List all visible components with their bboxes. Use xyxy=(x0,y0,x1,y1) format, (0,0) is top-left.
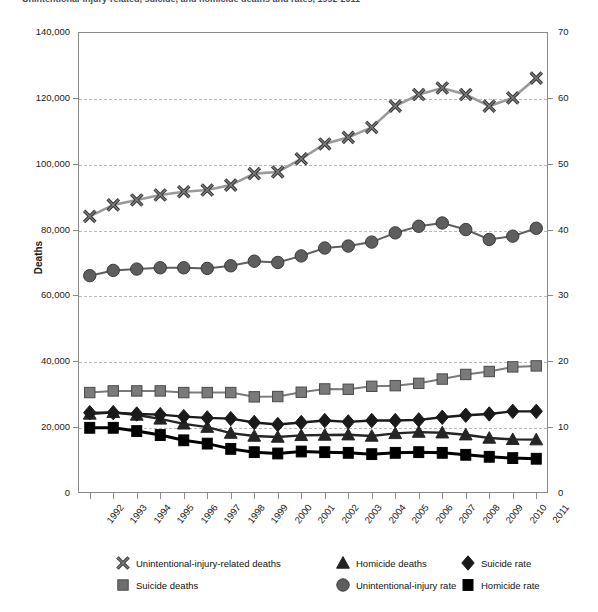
y-axis-left-tick: 140,000 xyxy=(4,26,70,37)
x-axis-tickmark xyxy=(348,493,349,499)
y-axis-left-tickmark xyxy=(73,427,78,428)
diamond xyxy=(458,554,478,572)
y-axis-right-tickmark xyxy=(548,295,553,296)
series-blacksquare xyxy=(85,422,542,464)
y-axis-right-tick: 50 xyxy=(558,158,569,169)
x-axis-tickmark xyxy=(395,493,396,499)
x-axis-tickmark xyxy=(466,493,467,499)
y-axis-right-tickmark xyxy=(548,230,553,231)
y-axis-left-tick: 100,000 xyxy=(4,158,70,169)
blacksquare xyxy=(458,576,478,594)
y-axis-left-tickmark xyxy=(73,361,78,362)
x-axis-tickmark xyxy=(137,493,138,499)
x-axis-tick-2003: 2003 xyxy=(362,502,384,525)
legend-item: Unintentional-injury-related deaths xyxy=(110,552,281,574)
y-axis-right-tick: 60 xyxy=(558,92,569,103)
y-axis-left-tick: 40,000 xyxy=(4,355,70,366)
legend-item: Homicide rate xyxy=(455,574,540,596)
x-axis-tick-2010: 2010 xyxy=(527,502,549,525)
y-axis-left-tick: 120,000 xyxy=(4,92,70,103)
triangle xyxy=(333,554,353,572)
legend-item: Suicide rate xyxy=(455,552,540,574)
x-axis-tick-2004: 2004 xyxy=(386,502,408,525)
x-axis-tick-1997: 1997 xyxy=(221,502,243,525)
legend-label: Unintentional-injury rate xyxy=(356,580,456,591)
legend-label: Suicide deaths xyxy=(136,580,198,591)
x-axis-tickmark xyxy=(207,493,208,499)
x-axis-tickmark xyxy=(254,493,255,499)
x-axis-tick-2006: 2006 xyxy=(433,502,455,525)
x-axis-tickmark xyxy=(90,493,91,499)
legend-label: Homicide deaths xyxy=(356,558,427,569)
x-axis-tick-1998: 1998 xyxy=(245,502,267,525)
y-axis-right-tick: 10 xyxy=(558,421,569,432)
chart-data-layer xyxy=(78,32,548,493)
x-axis-tick-2009: 2009 xyxy=(503,502,525,525)
y-axis-right-tickmark xyxy=(548,427,553,428)
y-axis-right-tickmark xyxy=(548,98,553,99)
y-axis-left-tick: 0 xyxy=(4,487,70,498)
square-marker xyxy=(110,576,136,594)
x-axis-tick-2000: 2000 xyxy=(292,502,314,525)
y-axis-right-tick: 0 xyxy=(558,487,563,498)
x-axis-tickmark xyxy=(231,493,232,499)
x-axis-tick-2007: 2007 xyxy=(456,502,478,525)
y-axis-left-tickmark xyxy=(73,230,78,231)
y-axis-left-tickmark xyxy=(73,164,78,165)
diamond-marker xyxy=(455,554,481,572)
y-axis-right-tick: 20 xyxy=(558,355,569,366)
x-axis-tick-1999: 1999 xyxy=(268,502,290,525)
x-axis-tick-1992: 1992 xyxy=(104,502,126,525)
x-marker xyxy=(110,554,136,572)
legend-label: Unintentional-injury-related deaths xyxy=(136,558,281,569)
x-axis-tickmark xyxy=(113,493,114,499)
x-axis-tick-2001: 2001 xyxy=(315,502,337,525)
x-axis-tick-2005: 2005 xyxy=(409,502,431,525)
x-axis-tickmark xyxy=(489,493,490,499)
x-axis-tickmark xyxy=(372,493,373,499)
chart-figure: Unintentional-injury-related, suicide, a… xyxy=(0,0,598,612)
x-axis-tick-2011: 2011 xyxy=(550,502,571,525)
chart-legend: Unintentional-injury-related deathsSuici… xyxy=(0,552,598,612)
chart-title-clipped: Unintentional-injury-related, suicide, a… xyxy=(0,0,598,9)
circle xyxy=(333,576,353,594)
x-axis-tick-2008: 2008 xyxy=(480,502,502,525)
series-square xyxy=(85,361,542,402)
x-axis-tick-2002: 2002 xyxy=(339,502,361,525)
legend-column: Unintentional-injury-related deathsSuici… xyxy=(110,552,281,596)
x-axis-tickmark xyxy=(184,493,185,499)
y-axis-right-tick: 30 xyxy=(558,289,569,300)
y-axis-right-tick: 40 xyxy=(558,224,569,235)
legend-label: Homicide rate xyxy=(481,580,540,591)
legend-column: Suicide rateHomicide rate xyxy=(455,552,540,596)
x-axis-tickmark xyxy=(419,493,420,499)
triangle-marker xyxy=(330,554,356,572)
y-axis-left-tickmark xyxy=(73,295,78,296)
x-axis-tickmark xyxy=(301,493,302,499)
legend-item: Homicide deaths xyxy=(330,552,456,574)
x xyxy=(113,554,133,572)
x-axis-tickmark xyxy=(442,493,443,499)
x-axis-tick-1994: 1994 xyxy=(151,502,173,525)
x-axis-tickmark xyxy=(536,493,537,499)
series-x xyxy=(84,73,542,223)
legend-label: Suicide rate xyxy=(481,558,531,569)
y-axis-left-tick: 60,000 xyxy=(4,289,70,300)
y-axis-left-tick: 80,000 xyxy=(4,224,70,235)
x-axis-tickmark xyxy=(513,493,514,499)
x-axis-tickmark xyxy=(160,493,161,499)
page-title: Unintentional-injury-related, suicide, a… xyxy=(22,0,360,4)
square xyxy=(113,576,133,594)
x-axis-tick-1993: 1993 xyxy=(127,502,149,525)
blacksquare-marker xyxy=(455,576,481,594)
x-axis-tick-1996: 1996 xyxy=(198,502,220,525)
legend-item: Suicide deaths xyxy=(110,574,281,596)
x-axis-tick-1995: 1995 xyxy=(174,502,196,525)
y-axis-left-tick: 20,000 xyxy=(4,421,70,432)
y-axis-right-tick: 70 xyxy=(558,26,569,37)
legend-item: Unintentional-injury rate xyxy=(330,574,456,596)
y-axis-right-tickmark xyxy=(548,361,553,362)
x-axis-tickmark xyxy=(325,493,326,499)
y-axis-right-tickmark xyxy=(548,164,553,165)
circle-marker xyxy=(330,576,356,594)
